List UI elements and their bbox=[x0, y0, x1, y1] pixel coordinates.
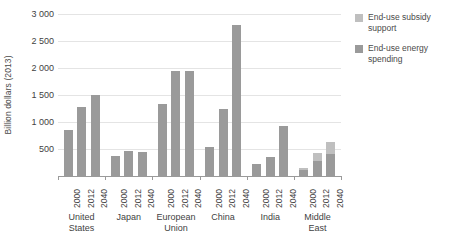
x-axis-group-label: China bbox=[200, 212, 247, 223]
y-tick-label: 2 000 bbox=[31, 63, 54, 73]
bar-segment-energy-spending bbox=[91, 95, 100, 176]
y-axis-ticks: 3 0002 5002 0001 5001 000500 bbox=[17, 14, 57, 176]
legend-item[interactable]: End-use energy spending bbox=[355, 43, 453, 65]
bar-segment-energy-spending bbox=[279, 126, 288, 176]
bar bbox=[124, 151, 133, 176]
x-tick-year-label: 2000 bbox=[214, 178, 224, 208]
legend-swatch-icon bbox=[355, 45, 363, 53]
x-tick-year-label: 2012 bbox=[86, 178, 96, 208]
x-tick-year-label: 2000 bbox=[119, 178, 129, 208]
bar-segment-energy-spending bbox=[64, 130, 73, 176]
plot-wrapper: 3 0002 5002 0001 5001 000500 bbox=[17, 14, 341, 189]
chart-legend: End-use subsidy supportEnd-use energy sp… bbox=[355, 12, 453, 74]
bar bbox=[111, 156, 120, 176]
bar-segment-energy-spending bbox=[205, 147, 214, 176]
bar bbox=[299, 168, 308, 176]
x-tick-year-label: 2040 bbox=[146, 178, 156, 208]
x-tick-year-label: 2012 bbox=[274, 178, 284, 208]
x-tick-year-label: 2012 bbox=[180, 178, 190, 208]
y-tick-label: 1 000 bbox=[31, 117, 54, 127]
x-axis-labels: 200020122040United States200020122040Jap… bbox=[58, 178, 341, 246]
bar bbox=[185, 71, 194, 176]
bar bbox=[158, 104, 167, 176]
bar-segment-energy-spending bbox=[252, 164, 261, 176]
legend-item[interactable]: End-use subsidy support bbox=[355, 12, 453, 34]
x-axis-group-label: Middle East bbox=[294, 212, 341, 233]
bar-segment-subsidy-support bbox=[313, 153, 322, 161]
x-axis-group-label: European Union bbox=[152, 212, 199, 233]
x-axis-group-label: United States bbox=[58, 212, 105, 233]
y-tick-label: 3 000 bbox=[31, 9, 54, 19]
bar-segment-energy-spending bbox=[232, 25, 241, 176]
bar bbox=[138, 152, 147, 176]
x-tick-year-label: 2040 bbox=[335, 178, 345, 208]
x-tick-year-label: 2012 bbox=[321, 178, 331, 208]
bar-segment-subsidy-support bbox=[326, 142, 335, 154]
y-axis-title-label: Billion dollars (2013) bbox=[3, 55, 13, 134]
x-tick-year-label: 2000 bbox=[72, 178, 82, 208]
x-tick-year-label: 2000 bbox=[261, 178, 271, 208]
bar bbox=[279, 126, 288, 176]
y-axis-title: Billion dollars (2013) bbox=[0, 0, 16, 190]
x-tick-year-label: 2040 bbox=[288, 178, 298, 208]
bar-segment-energy-spending bbox=[313, 161, 322, 176]
y-tick-label: 2 500 bbox=[31, 36, 54, 46]
bar-segment-energy-spending bbox=[266, 157, 275, 176]
bar-segment-energy-spending bbox=[111, 156, 120, 176]
x-tick-year-label: 2012 bbox=[227, 178, 237, 208]
bar bbox=[171, 71, 180, 176]
bar-chart: Billion dollars (2013) 3 0002 5002 0001 … bbox=[0, 0, 453, 249]
x-tick-year-label: 2040 bbox=[241, 178, 251, 208]
x-tick-year-label: 2040 bbox=[99, 178, 109, 208]
x-tick-year-label: 2040 bbox=[193, 178, 203, 208]
x-axis-group-label: Japan bbox=[105, 212, 152, 223]
bars-layer bbox=[58, 14, 341, 176]
y-tick-label: 500 bbox=[39, 144, 54, 154]
bar-segment-energy-spending bbox=[171, 71, 180, 176]
bar bbox=[252, 164, 261, 176]
x-tick-year-label: 2012 bbox=[133, 178, 143, 208]
bar-segment-energy-spending bbox=[77, 107, 86, 176]
legend-item-label: End-use energy spending bbox=[368, 43, 453, 65]
legend-swatch-icon bbox=[355, 14, 363, 22]
bar bbox=[232, 25, 241, 176]
bar bbox=[219, 109, 228, 176]
bar bbox=[266, 157, 275, 176]
bar bbox=[77, 107, 86, 176]
bar-segment-energy-spending bbox=[124, 151, 133, 176]
bar bbox=[91, 95, 100, 176]
bar bbox=[326, 142, 335, 176]
legend-item-label: End-use subsidy support bbox=[368, 12, 453, 34]
x-tick-year-label: 2000 bbox=[166, 178, 176, 208]
bar-segment-energy-spending bbox=[219, 109, 228, 176]
y-tick-label: 1 500 bbox=[31, 90, 54, 100]
bar-segment-energy-spending bbox=[158, 104, 167, 176]
x-tick-year-label: 2000 bbox=[308, 178, 318, 208]
bar-segment-energy-spending bbox=[185, 71, 194, 176]
bar bbox=[64, 130, 73, 176]
bar-segment-energy-spending bbox=[138, 152, 147, 176]
plot-area bbox=[58, 14, 341, 176]
bar bbox=[313, 153, 322, 176]
x-axis-group-label: India bbox=[247, 212, 294, 223]
bar-segment-energy-spending bbox=[326, 154, 335, 176]
bar bbox=[205, 147, 214, 176]
